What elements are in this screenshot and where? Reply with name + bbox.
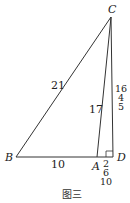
segment-bc-length: 21	[51, 80, 65, 91]
segment-ac-length: 17	[89, 104, 103, 115]
point-c-label: C	[108, 4, 116, 15]
figure-caption: 图三	[62, 186, 82, 201]
point-d-label: D	[117, 152, 126, 163]
segment-cd-length: 16 4 5	[114, 84, 128, 111]
right-angle-mark	[106, 151, 113, 157]
segment-cd	[111, 17, 113, 157]
cd-length-line-3: 5	[114, 102, 128, 111]
point-b-label: B	[5, 152, 13, 163]
segment-ba-length: 10	[51, 159, 65, 170]
ad-length-line-3: 10	[99, 177, 113, 186]
segment-ad-length: 2 6 10	[99, 159, 113, 186]
segment-ac	[97, 17, 111, 157]
